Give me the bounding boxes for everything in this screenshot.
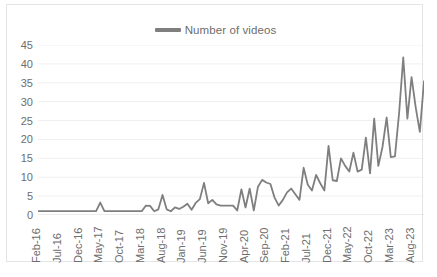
- x-axis-tick-label: Feb-16: [31, 228, 42, 263]
- x-axis-tick-label: Aug-23: [405, 228, 416, 263]
- x-axis-tick-label: Jun-19: [197, 229, 208, 263]
- y-axis-tick-label: 30: [7, 97, 33, 107]
- y-axis-tick-label: 20: [7, 134, 33, 144]
- plot-area: [38, 45, 424, 215]
- line-chart-svg: [38, 45, 424, 215]
- x-axis-tick-label: Sep-20: [259, 228, 270, 263]
- x-axis-tick-labels: Feb-16Jul-16Dec-16May-17Oct-17Mar-18Aug-…: [38, 217, 424, 263]
- y-axis-tick-label: 35: [7, 78, 33, 88]
- x-axis-tick-label: Mar-18: [135, 228, 146, 263]
- x-axis-tick-label: Nov-19: [218, 228, 229, 263]
- x-axis-tick-label: May-22: [342, 226, 353, 263]
- y-axis-tick-label: 45: [7, 40, 33, 50]
- x-axis-tick-label: Apr-20: [239, 230, 250, 263]
- y-axis-tick-labels: 454035302520151050: [7, 45, 33, 215]
- chart-container: Number of videos 454035302520151050 Feb-…: [6, 4, 423, 262]
- y-axis-tick-label: 15: [7, 153, 33, 163]
- series-line-number-of-videos: [38, 57, 424, 211]
- y-axis-tick-label: 25: [7, 116, 33, 126]
- x-axis-tick-label: May-17: [93, 226, 104, 263]
- x-axis-tick-label: Aug-18: [156, 228, 167, 263]
- x-axis-tick-label: Jul-16: [52, 233, 63, 263]
- y-axis-tick-label: 40: [7, 59, 33, 69]
- x-axis-tick-label: Feb-21: [280, 228, 291, 263]
- x-axis-tick-label: Oct-17: [114, 230, 125, 263]
- x-axis-tick-label: Mar-23: [384, 228, 395, 263]
- x-axis-tick-label: Dec-21: [322, 228, 333, 263]
- x-axis-tick-label: Oct-22: [363, 230, 374, 263]
- y-axis-tick-label: 0: [7, 210, 33, 220]
- y-axis-tick-label: 5: [7, 191, 33, 201]
- x-axis-tick-label: Jul-21: [301, 233, 312, 263]
- x-axis-tick-label: Jan-19: [176, 229, 187, 263]
- x-axis-tick-label: Dec-16: [73, 228, 84, 263]
- y-axis-tick-label: 10: [7, 172, 33, 182]
- plot-wrapper: 454035302520151050 Feb-16Jul-16Dec-16May…: [7, 5, 424, 263]
- gridlines: [38, 45, 424, 215]
